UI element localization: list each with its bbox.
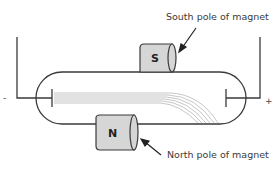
north-callout-arrow [141,139,161,155]
south-pole-letter: S [151,52,159,65]
south-callout-arrow [179,28,196,52]
positive-wire [226,37,260,107]
positive-terminal-label: + [265,96,273,106]
north-magnet: N [96,115,138,150]
crt-diagram: S N South pole of magnet North pole of m… [0,0,280,174]
negative-terminal-label: - [3,93,6,103]
south-magnet: S [140,44,176,72]
glass-tube [36,72,246,124]
north-callout-label: North pole of magnet [167,149,269,160]
north-pole-letter: N [108,127,117,140]
south-callout-label: South pole of magnet [166,11,269,22]
negative-wire [17,37,52,107]
